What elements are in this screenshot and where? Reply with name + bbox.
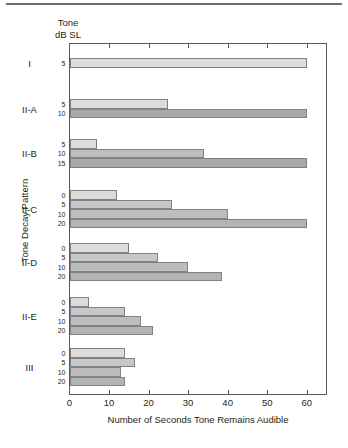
db-level-label: 0: [52, 191, 66, 198]
x-tick-label: 0: [67, 397, 72, 408]
bar: [70, 253, 159, 263]
bar: [70, 272, 222, 282]
x-tick-bottom: [267, 390, 268, 395]
db-level-label: 5: [52, 308, 66, 315]
bar: [70, 200, 173, 210]
db-level-label: 20: [52, 378, 66, 385]
x-tick-top: [307, 43, 308, 48]
bar: [70, 367, 121, 377]
db-level-label: 20: [52, 327, 66, 334]
bar: [70, 58, 307, 68]
x-tick-top: [149, 43, 150, 48]
db-level-label: 10: [52, 263, 66, 270]
x-tick-label: 50: [262, 397, 273, 408]
pattern-group-label: III: [13, 362, 47, 373]
db-level-label: 5: [52, 59, 66, 66]
bar: [70, 190, 117, 200]
db-level-label: 0: [52, 349, 66, 356]
x-tick-bottom: [228, 390, 229, 395]
x-tick-label: 20: [143, 397, 154, 408]
bar: [70, 262, 189, 272]
x-tick-bottom: [149, 390, 150, 395]
db-level-label: 5: [52, 201, 66, 208]
db-level-label: 10: [52, 150, 66, 157]
db-level-label: 20: [52, 220, 66, 227]
db-level-label: 0: [52, 298, 66, 305]
db-level-label: 5: [52, 100, 66, 107]
x-tick-label: 30: [183, 397, 194, 408]
bar: [70, 209, 228, 219]
x-tick-label: 10: [104, 397, 115, 408]
db-level-label: 10: [52, 317, 66, 324]
bar: [70, 358, 135, 368]
bar: [70, 297, 90, 307]
db-level-label: 10: [52, 110, 66, 117]
bar: [70, 307, 125, 317]
x-axis-title: Number of Seconds Tone Remains Audible: [69, 414, 327, 425]
db-level-label: 5: [52, 254, 66, 261]
pattern-group-label: II-E: [13, 311, 47, 322]
db-level-label: 0: [52, 244, 66, 251]
bar: [70, 99, 169, 109]
db-level-label: 5: [52, 359, 66, 366]
bar: [70, 348, 125, 358]
bar: [70, 219, 307, 229]
bar: [70, 243, 129, 253]
bar: [70, 326, 153, 336]
x-tick-top: [267, 43, 268, 48]
db-level-label: 10: [52, 210, 66, 217]
series-header-line-2: dB SL: [44, 29, 92, 41]
tone-decay-bar-chart: Tone dB SL 0102030405060 5I510II-A51015I…: [0, 0, 348, 448]
y-axis-title: Tone Decay Pattern: [19, 151, 30, 291]
pattern-group-label: II-A: [13, 103, 47, 114]
bar: [70, 158, 307, 168]
bar: [70, 316, 141, 326]
db-level-label: 10: [52, 368, 66, 375]
x-tick-top: [109, 43, 110, 48]
header-rule: [6, 3, 342, 5]
x-tick-label: 60: [301, 397, 312, 408]
bar: [70, 149, 204, 159]
db-level-label: 15: [52, 159, 66, 166]
x-tick-top: [188, 43, 189, 48]
db-level-label: 20: [52, 273, 66, 280]
pattern-group-label: I: [13, 57, 47, 68]
x-tick-label: 40: [222, 397, 233, 408]
x-tick-bottom: [307, 390, 308, 395]
db-level-label: 5: [52, 140, 66, 147]
x-tick-bottom: [109, 390, 110, 395]
series-column-header: Tone dB SL: [44, 17, 92, 40]
bar: [70, 109, 307, 119]
x-tick-bottom: [188, 390, 189, 395]
bar: [70, 139, 98, 149]
bar: [70, 377, 125, 387]
x-tick-top: [228, 43, 229, 48]
series-header-line-1: Tone: [44, 17, 92, 29]
